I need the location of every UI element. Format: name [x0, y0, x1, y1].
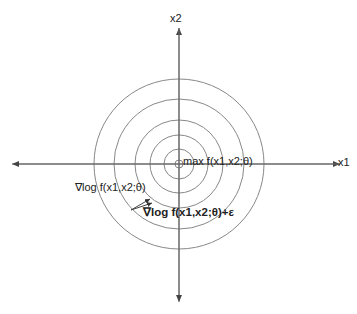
contour-diagram [0, 0, 357, 314]
x2-axis-label: x2 [170, 13, 182, 24]
gradient-label: ∇log f(x1,x2;θ) [75, 182, 146, 193]
maximum-label: max f(x1,x2;θ) [183, 156, 253, 167]
noisy-gradient-label: ∇log f(x1,x2;θ)+ε [143, 207, 234, 219]
x1-axis-label: x1 [338, 157, 350, 168]
